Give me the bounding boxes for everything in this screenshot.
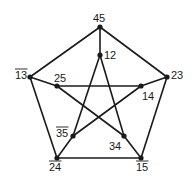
edge-24-35 [57, 136, 73, 158]
vertex-24 [54, 155, 59, 160]
edge-23-14 [141, 77, 167, 86]
vertex-label-35: 35 [56, 127, 68, 139]
edge-13-24 [30, 77, 57, 158]
vertex-45 [97, 24, 102, 29]
petersen-graph: 45121323251435342415 [0, 0, 192, 185]
vertex-labels: 45121323251435342415 [15, 12, 183, 173]
vertex-label-23: 23 [171, 69, 183, 81]
vertex-13 [27, 74, 32, 79]
vertex-35 [70, 133, 75, 138]
vertex-25 [54, 83, 59, 88]
vertex-label-34: 34 [109, 140, 121, 152]
edge-14-35 [73, 86, 141, 136]
vertex-12 [97, 52, 102, 57]
vertex-15 [138, 155, 143, 160]
vertex-label-12: 12 [104, 49, 116, 61]
edge-45-13 [30, 27, 100, 77]
edge-15-34 [124, 136, 141, 158]
vertex-label-25: 25 [54, 72, 66, 84]
vertex-label-13: 13 [15, 69, 27, 81]
vertex-23 [164, 74, 169, 79]
vertex-label-24: 24 [49, 161, 61, 173]
vertex-label-15: 15 [136, 161, 148, 173]
vertex-label-45: 45 [93, 12, 105, 24]
edge-12-35 [73, 55, 100, 136]
edge-12-34 [100, 55, 124, 136]
vertex-label-14: 14 [142, 90, 154, 102]
vertex-34 [121, 133, 126, 138]
vertex-14 [138, 83, 143, 88]
edge-13-25 [30, 77, 57, 86]
